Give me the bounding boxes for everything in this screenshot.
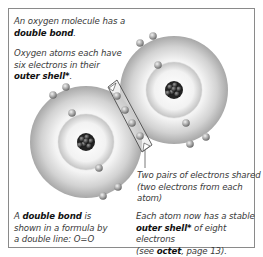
stable-octet-note: Each atom now has a stable outer shell* … — [136, 211, 263, 257]
intro-text: An oxygen molecule has a double bond. — [14, 16, 125, 39]
formula-note: A double bond is shown in a formula by a… — [14, 211, 107, 246]
nucleus — [77, 133, 95, 151]
nucleus — [165, 81, 183, 99]
shared-electrons-label: Two pairs of electrons shared (two elect… — [137, 170, 263, 205]
outer-shell-note: Oxygen atoms each have six electrons in … — [14, 48, 122, 83]
